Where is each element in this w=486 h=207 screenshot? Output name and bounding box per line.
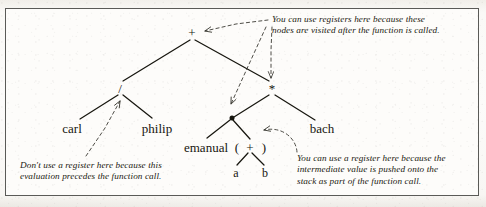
annotation-registers-after-call: You can use registers here because these… [272, 14, 440, 37]
edge-innerplus-to-b [252, 153, 264, 165]
edge-divide-to-carl [80, 95, 118, 119]
node-philip: philip [142, 122, 172, 135]
node-a: a [233, 167, 238, 179]
node-divide: / [118, 82, 122, 95]
leader-to-root-plus [205, 20, 268, 31]
call-node-dot [230, 116, 235, 121]
edge-root-to-times [195, 40, 269, 81]
edge-times-to-calldot [234, 95, 269, 117]
edge-calldot-to-emanual [207, 120, 230, 138]
node-root-plus: + [188, 26, 195, 39]
node-times: * [269, 82, 276, 95]
node-carl: carl [62, 122, 81, 135]
node-b: b [262, 167, 268, 179]
leader-to-inner-plus [264, 129, 297, 152]
figure-canvas: + / * carl philip bach emanual ( + ) a b… [0, 0, 486, 207]
edge-divide-to-philip [123, 95, 152, 118]
edge-root-to-divide [123, 40, 190, 81]
node-open-paren: ( [235, 141, 239, 154]
annotation-register-intermediate: You can use a register here because the … [297, 153, 446, 187]
node-close-paren: ) [262, 141, 266, 154]
leader-to-call-dot [231, 27, 266, 104]
node-emanual: emanual [184, 141, 228, 154]
edge-innerplus-to-a [237, 153, 248, 165]
annotation-no-register: Don't use a register here because this e… [20, 160, 162, 183]
node-inner-plus: + [246, 141, 253, 154]
leader-to-divide [86, 101, 120, 156]
edge-times-to-bach [275, 95, 315, 120]
edge-calldot-to-innerplus [233, 120, 250, 139]
node-bach: bach [310, 122, 335, 135]
